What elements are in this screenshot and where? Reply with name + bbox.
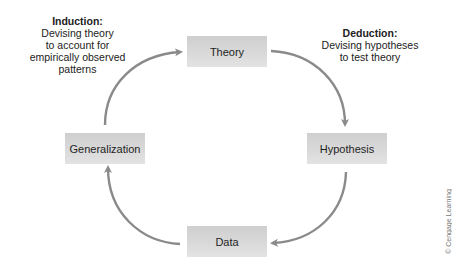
induction-title: Induction: bbox=[20, 15, 135, 27]
node-hypothesis-label: Hypothesis bbox=[320, 143, 374, 155]
deduction-line: to test theory bbox=[315, 51, 425, 63]
arrow-hypothesis-to-data bbox=[273, 172, 346, 243]
induction-line: Devising theory bbox=[20, 27, 135, 39]
deduction-line: Devising hypotheses bbox=[315, 39, 425, 51]
deduction-annotation: Deduction: Devising hypotheses to test t… bbox=[315, 27, 425, 63]
induction-line: patterns bbox=[20, 63, 135, 75]
deduction-title: Deduction: bbox=[315, 27, 425, 39]
node-theory-label: Theory bbox=[210, 46, 244, 58]
node-generalization: Generalization bbox=[65, 133, 145, 164]
induction-line: empirically observed bbox=[20, 51, 135, 63]
induction-line: to account for bbox=[20, 39, 135, 51]
node-data-label: Data bbox=[215, 236, 238, 248]
node-hypothesis: Hypothesis bbox=[307, 133, 387, 164]
induction-annotation: Induction: Devising theory to account fo… bbox=[20, 15, 135, 75]
node-theory: Theory bbox=[187, 36, 267, 67]
copyright-credit: © Cengage Learning bbox=[445, 182, 452, 262]
node-data: Data bbox=[187, 226, 267, 257]
arrow-data-to-generalization bbox=[108, 168, 180, 244]
node-generalization-label: Generalization bbox=[70, 143, 141, 155]
